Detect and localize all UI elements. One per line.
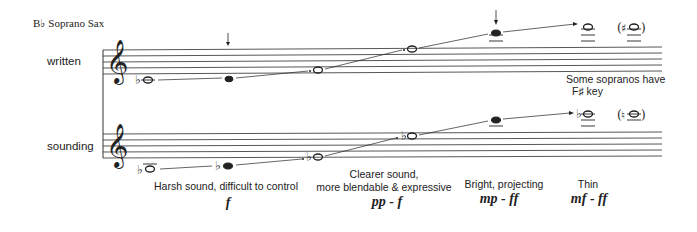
flat-icon: ♭	[576, 107, 582, 121]
sounding-staff	[103, 132, 662, 158]
fsharp-annotation-line1: Some sopranos have	[566, 73, 665, 85]
filled-note-icon	[492, 30, 501, 36]
natural-icon: ♮	[621, 109, 625, 122]
flat-icon: ♭	[137, 163, 143, 177]
treble-clef-icon: 𝄞	[106, 39, 128, 85]
written-row-label: written	[47, 55, 81, 67]
register-1-description: Harsh sound, difficult to control	[154, 180, 298, 193]
whole-note-icon	[314, 67, 323, 73]
flat-icon: ♭	[401, 129, 407, 143]
filled-note-icon	[492, 117, 501, 123]
flat-icon: ♭	[306, 150, 312, 164]
register-2-description-line1: Clearer sound,	[316, 168, 451, 181]
register-4-dynamics: mf - ff	[571, 191, 607, 207]
sounding-notes: ♭ ♭ ♭ ♭ ♭ ( ♮ )	[137, 107, 646, 177]
flat-icon: ♭	[135, 73, 141, 87]
treble-clef-icon: 𝄞	[106, 123, 128, 169]
written-staff	[103, 47, 662, 74]
flat-icon: ♭	[215, 159, 221, 173]
fsharp-annotation: Some sopranos have F♯ key	[566, 73, 665, 97]
instrument-title: B♭ Soprano Sax	[33, 17, 104, 30]
filled-note-icon	[224, 163, 233, 169]
filled-note-icon	[225, 76, 233, 82]
whole-note-icon	[408, 46, 417, 52]
whole-note-icon	[408, 133, 417, 139]
register-3-dynamics: mp - ff	[480, 191, 519, 207]
register-2-description-line2: more blendable & expressive	[316, 181, 451, 194]
register-3-description: Bright, projecting	[465, 178, 544, 191]
svg-text:): )	[641, 21, 646, 35]
svg-text:): )	[641, 108, 646, 122]
sounding-row-label: sounding	[47, 140, 94, 152]
register-1-dynamics: f	[226, 195, 231, 211]
register-2-description: Clearer sound, more blendable & expressi…	[316, 168, 451, 194]
register-2-dynamics: pp - f	[372, 194, 402, 210]
fsharp-annotation-line2: F♯ key	[566, 85, 665, 97]
whole-note-icon	[146, 166, 155, 172]
sharp-icon: ♯	[621, 22, 626, 35]
register-4-description: Thin	[578, 178, 598, 191]
